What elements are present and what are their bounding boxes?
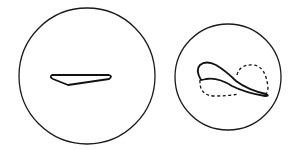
figure xyxy=(0,0,302,150)
curved-solid-shape xyxy=(198,63,268,97)
left-panel xyxy=(19,8,155,144)
left-circle xyxy=(19,8,155,144)
right-circle xyxy=(175,24,281,130)
wedge-shape xyxy=(51,75,111,85)
right-panel xyxy=(175,24,281,130)
